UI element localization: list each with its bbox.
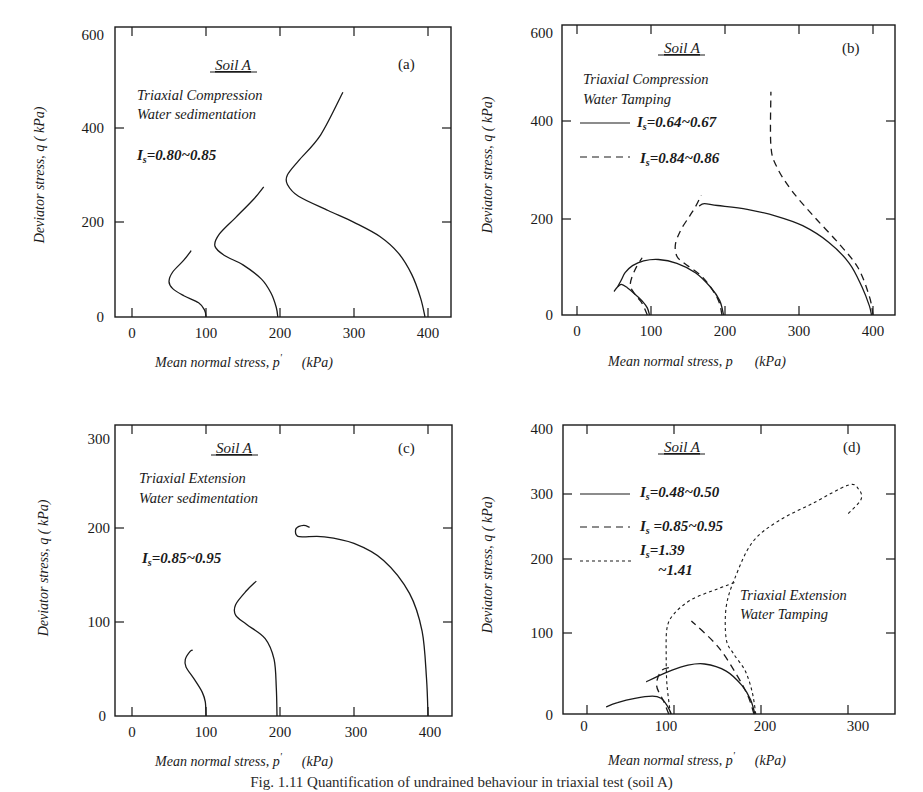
svg-text:400: 400 [419,724,442,740]
panel-letter-c: (c) [398,440,415,457]
panel-letter-d: (d) [843,439,861,456]
stress-path-c [234,581,277,716]
prep-method-b: Water Tamping [583,91,671,107]
legend-label-dotted-d: Is=1.39 [639,542,685,560]
stress-path-b [770,92,873,315]
svg-text:600: 600 [531,25,554,41]
figure-canvas: 0 200 400 600 0 100 200 300 400 Mean nor… [0,0,923,792]
svg-text:0: 0 [573,323,581,339]
svg-text:200: 200 [88,520,111,536]
svg-text:400: 400 [82,120,105,136]
soil-title-d: Soil A [664,439,701,455]
svg-text:0: 0 [99,708,107,724]
ticks-d [563,425,895,714]
svg-text:400: 400 [531,421,554,437]
svg-text:200: 200 [82,214,105,230]
svg-text:100: 100 [195,325,218,341]
is-range-c: Is=0.85~0.95 [141,550,222,568]
svg-text:100: 100 [655,718,678,734]
stress-path-b [699,204,871,315]
svg-text:200: 200 [531,551,554,567]
plot-frame-d [563,425,895,714]
svg-text:400: 400 [417,325,440,341]
legend-label-dashed-d: Is =0.85~0.95 [639,518,724,536]
y-tick-labels-c: 0 100 200 300 [88,431,111,724]
svg-text:200: 200 [531,211,554,227]
legend-d: Is=0.48~0.50 Is =0.85~0.95 Is=1.39 ~1.41 [580,484,724,578]
panel-a: 0 200 400 600 0 100 200 300 400 Mean nor… [32,27,451,371]
panel-letter-b: (b) [842,40,860,57]
stress-path-d [646,664,755,714]
plot-frame-b [562,25,895,315]
svg-text:100: 100 [195,724,218,740]
stress-path-a [215,187,278,317]
stress-path-b [618,259,724,315]
panel-c: 0 100 200 300 0 100 200 300 400 Mean nor… [36,425,452,770]
stress-path-d [606,696,671,714]
svg-text:0: 0 [97,309,105,325]
legend-label-dotted-cont-d: ~1.41 [658,562,693,578]
svg-text:300: 300 [343,325,366,341]
y-axis-title-a: Deviator stress, q ( kPa) [32,106,48,244]
svg-text:300: 300 [88,431,111,447]
svg-text:0: 0 [546,707,554,723]
x-tick-labels-b: 0 100 200 300 400 [573,323,884,339]
stress-path-d [691,621,754,714]
panel-d: 0 100 200 300 400 0 100 200 300 Mean nor… [480,421,895,769]
y-axis-title-d: Deviator stress, q ( kPa) [480,496,496,634]
stress-path-a [169,251,206,317]
svg-text:200: 200 [269,325,292,341]
svg-text:200: 200 [269,724,292,740]
soil-title-b: Soil A [664,40,701,56]
soil-title-c: Soil A [216,440,253,456]
svg-text:0: 0 [546,307,554,323]
test-type-c: Triaxial Extension [139,470,246,486]
soil-title-a: Soil A [215,57,252,73]
prep-method-d: Water Tamping [740,606,828,622]
legend-b: Is=0.64~0.67 Is=0.84~0.86 [580,114,720,168]
svg-text:400: 400 [862,323,885,339]
ticks-c [115,425,452,716]
x-tick-labels-c: 0 100 200 300 400 [128,724,441,740]
legend-label-dashed-b: Is=0.84~0.86 [639,150,720,168]
y-tick-labels-d: 0 100 200 300 400 [531,421,554,723]
figure-caption: Fig. 1.11 Quantification of undrained be… [0,774,923,791]
svg-text:300: 300 [847,718,870,734]
stress-path-c [295,525,428,716]
y-axis-title-b: Deviator stress, q ( kPa) [480,96,496,234]
prep-method-a: Water sedimentation [137,106,256,122]
x-axis-title-d: Mean normal stress, p'(kPa) [607,750,786,769]
plot-frame-c [115,425,452,716]
test-type-a: Triaxial Compression [137,87,263,103]
x-axis-title-a: Mean normal stress, p'(kPa) [154,352,333,371]
svg-text:600: 600 [82,27,105,43]
legend-label-solid-d: Is=0.48~0.50 [639,484,720,502]
stress-paths-a [169,92,425,317]
svg-text:200: 200 [714,323,737,339]
svg-text:100: 100 [531,625,554,641]
y-tick-labels-a: 0 200 400 600 [82,27,105,325]
stress-path-b [675,195,722,315]
stress-path-c [185,650,206,716]
svg-text:0: 0 [128,325,136,341]
svg-text:100: 100 [88,614,111,630]
svg-text:200: 200 [754,718,777,734]
stress-path-a [286,92,425,317]
svg-text:0: 0 [580,718,588,734]
svg-text:300: 300 [788,323,811,339]
ticks-b [562,25,895,315]
svg-text:100: 100 [640,323,663,339]
x-axis-title-b: Mean normal stress, p(kPa) [607,354,786,370]
y-tick-labels-b: 0 200 400 600 [531,25,554,323]
test-type-d: Triaxial Extension [740,587,847,603]
svg-text:0: 0 [128,724,136,740]
panel-letter-a: (a) [398,56,415,73]
x-tick-labels-d: 0 100 200 300 [580,718,869,734]
x-tick-labels-a: 0 100 200 300 400 [128,325,439,341]
svg-text:300: 300 [345,724,368,740]
legend-label-solid-b: Is=0.64~0.67 [636,114,717,132]
x-axis-title-c: Mean normal stress, p'(kPa) [154,751,333,770]
prep-method-c: Water sedimentation [139,490,258,506]
svg-text:300: 300 [531,486,554,502]
stress-path-b [630,258,647,315]
